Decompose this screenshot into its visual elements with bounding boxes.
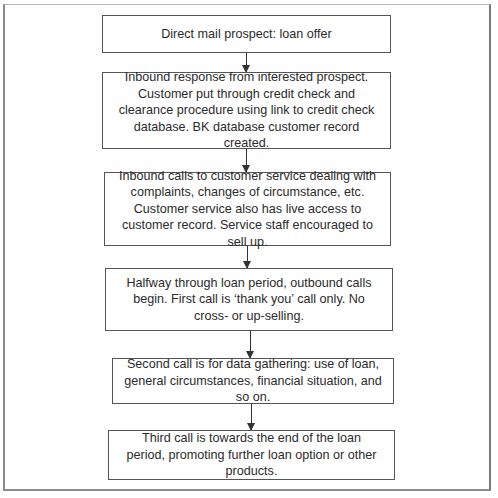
flow-step-first-outbound-call: Halfway through loan period, outbound ca… (105, 268, 393, 331)
flow-step-text: Inbound response from interested prospec… (115, 69, 378, 152)
flow-step-text: Inbound calls to customer service dealin… (113, 168, 382, 251)
flow-step-third-call: Third call is towards the end of the loa… (108, 430, 395, 480)
flow-step-text: Halfway through loan period, outbound ca… (118, 275, 380, 325)
flow-step-text: Second call is for data gathering: use o… (121, 356, 385, 406)
arrow-down-icon (247, 246, 248, 268)
flow-step-second-call: Second call is for data gathering: use o… (112, 358, 394, 404)
flow-step-inbound-calls: Inbound calls to customer service dealin… (104, 172, 391, 246)
flow-step-text: Direct mail prospect: loan offer (161, 26, 332, 43)
flow-step-inbound-response: Inbound response from interested prospec… (102, 72, 391, 149)
arrow-down-icon (251, 404, 252, 430)
flow-step-direct-mail: Direct mail prospect: loan offer (102, 15, 391, 53)
arrow-down-icon (250, 331, 251, 358)
flow-step-text: Third call is towards the end of the loa… (123, 430, 380, 480)
